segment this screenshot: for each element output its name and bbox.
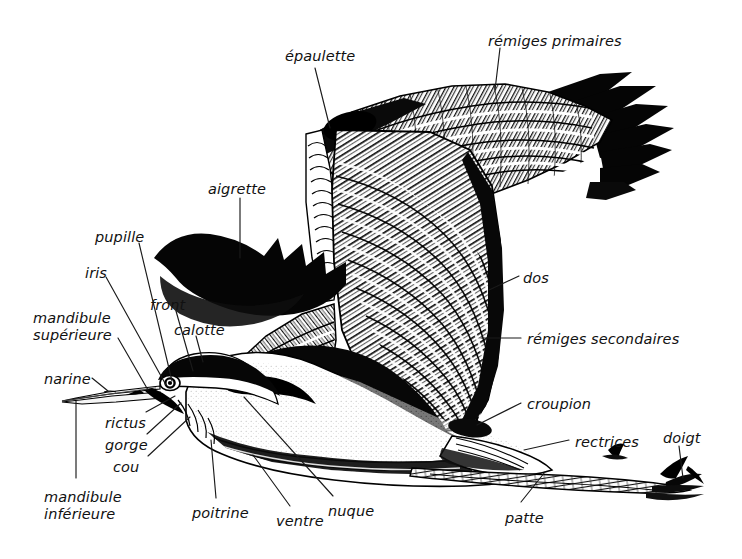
label-rectrices: rectrices: [575, 434, 639, 450]
label-aigrette: aigrette: [208, 181, 266, 197]
label-poitrine: poitrine: [192, 505, 249, 521]
label-remiges-primaires: rémiges primaires: [488, 33, 622, 49]
label-pupille: pupille: [95, 229, 144, 245]
bird-illustration: [0, 0, 742, 559]
label-nuque: nuque: [328, 503, 374, 519]
pupil: [168, 381, 172, 385]
label-gorge: gorge: [105, 437, 148, 453]
label-calotte: calotte: [174, 322, 225, 338]
eye: [160, 376, 180, 391]
label-croupion: croupion: [527, 396, 591, 412]
label-epaulette: épaulette: [285, 48, 355, 64]
label-rictus: rictus: [105, 415, 146, 431]
label-mandibule-inferieure: mandibule inférieure: [44, 489, 122, 523]
label-cou: cou: [113, 459, 139, 475]
bird-anatomy-diagram: épauletterémiges primairesaigrettepupill…: [0, 0, 742, 559]
label-iris: iris: [85, 265, 107, 281]
label-doigt: doigt: [663, 430, 701, 446]
label-ventre: ventre: [276, 513, 324, 529]
label-dos: dos: [523, 270, 549, 286]
label-patte: patte: [505, 510, 544, 526]
label-front: front: [150, 297, 185, 313]
label-narine: narine: [44, 371, 91, 387]
label-mandibule-superieure: mandibule supérieure: [33, 310, 112, 344]
label-remiges-secondaires: rémiges secondaires: [527, 331, 679, 347]
